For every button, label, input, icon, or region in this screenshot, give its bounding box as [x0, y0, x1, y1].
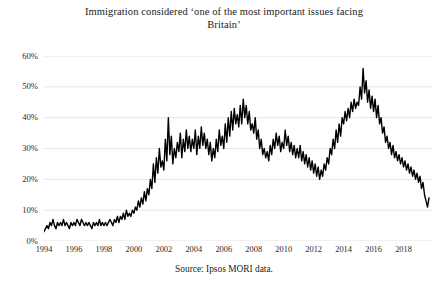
- chart-figure: Immigration considered ‘one of the most …: [0, 0, 448, 289]
- x-axis-tick-label: 2004: [179, 245, 209, 254]
- x-axis-tick-label: 1994: [29, 245, 59, 254]
- gridlines: [44, 56, 432, 241]
- x-axis-tick-label: 2018: [389, 245, 419, 254]
- x-axis-tick-label: 2010: [269, 245, 299, 254]
- x-axis-tick-label: 2002: [149, 245, 179, 254]
- x-axis-tick-label: 1996: [59, 245, 89, 254]
- x-axis-tick-label: 2008: [239, 245, 269, 254]
- x-axis-tick-label: 2012: [299, 245, 329, 254]
- plot-area: [44, 56, 432, 241]
- line-chart-svg: [44, 56, 432, 241]
- x-axis-tick-label: 2014: [329, 245, 359, 254]
- x-axis-tick-label: 1998: [89, 245, 119, 254]
- data-series-line: [44, 68, 429, 231]
- x-axis-tick-label: 2000: [119, 245, 149, 254]
- x-axis-tick-label: 2016: [359, 245, 389, 254]
- source-caption: Source: Ipsos MORI data.: [0, 264, 448, 274]
- x-axis-tick-label: 2006: [209, 245, 239, 254]
